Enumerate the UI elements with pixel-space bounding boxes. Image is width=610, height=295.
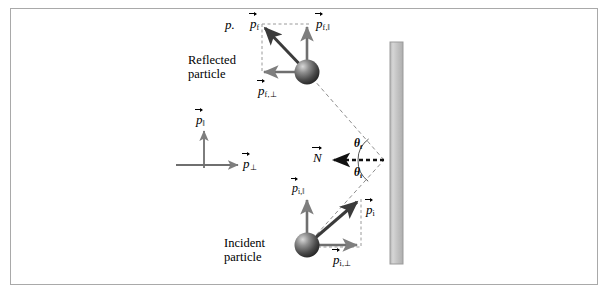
diagram-canvas: [0, 0, 610, 295]
p-f-perp-label: pf,⊥: [258, 84, 277, 100]
legend-perp-label: p⊥: [243, 157, 257, 173]
reflected-caption-line1: Reflected: [188, 53, 236, 67]
p-i-perp-label: pi,⊥: [333, 253, 351, 269]
physics-diagram-figure: p. pf pf,‖ pf,⊥ Reflected particle p‖ p⊥…: [0, 0, 610, 295]
incident-caption-line1: Incident: [224, 236, 265, 250]
incident-particle-caption: Incident particle: [224, 236, 265, 265]
p-i-parallel-label: pi,‖: [292, 182, 305, 197]
reflected-particle-caption: Reflected particle: [188, 53, 236, 82]
theta-i-label: θi: [354, 166, 362, 180]
wall: [390, 42, 403, 264]
theta-f-label: θf: [354, 137, 363, 151]
legend-parallel-label: p‖: [196, 113, 205, 129]
normal-vector-label: N: [313, 151, 322, 166]
p-f-label: pf: [250, 17, 259, 33]
incident-particle-sphere: [295, 233, 320, 258]
stray-p-label: p.: [225, 18, 235, 33]
reflected-caption-line2: particle: [188, 67, 236, 81]
reflected-particle-sphere: [295, 60, 320, 85]
incident-caption-line2: particle: [224, 250, 265, 264]
p-f-parallel-label: pf,‖: [316, 17, 330, 33]
p-i-label: pi: [366, 203, 375, 219]
